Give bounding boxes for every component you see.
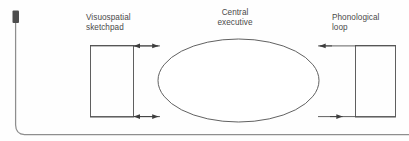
phonological-loop-label: Phonological loop	[332, 13, 380, 33]
phonological-loop-rect	[356, 46, 396, 118]
central-executive-oval	[158, 39, 319, 122]
visuospatial-sketchpad-box	[91, 46, 134, 118]
figure-container: Visuospatial sketchpad Central executive…	[0, 0, 409, 141]
central-executive-label: Central executive	[195, 8, 275, 28]
visuospatial-sketchpad-rect	[91, 46, 134, 118]
page-edge-cap	[13, 11, 20, 24]
central-executive-ellipse	[158, 39, 319, 122]
visuospatial-sketchpad-label: Visuospatial sketchpad	[86, 13, 131, 33]
phonological-loop-box	[356, 46, 396, 118]
